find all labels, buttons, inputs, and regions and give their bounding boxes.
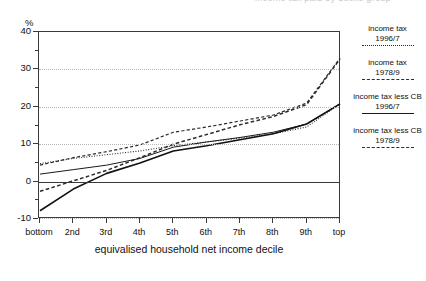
- gridline-10: [39, 144, 339, 145]
- data-series-layer: [39, 32, 341, 219]
- y-tick-label-20: 20: [5, 100, 31, 111]
- legend-item-2[interactable]: income tax1978/9: [349, 58, 426, 80]
- y-tick-label--10: -10: [5, 212, 31, 223]
- legend-swatch-dotted: [362, 45, 414, 46]
- x-tick-9th: [306, 218, 307, 223]
- legend-item-label-period: 1996/7: [349, 34, 426, 44]
- series-income-tax-less-cb-1978-9: [40, 59, 340, 191]
- legend-item-label-period: 1978/9: [349, 136, 426, 146]
- y-tick-label-40: 40: [5, 25, 31, 36]
- zero-axis-line: [39, 182, 339, 183]
- x-tick-bottom: [39, 218, 40, 223]
- gridline-20: [39, 107, 339, 108]
- x-axis-tick-marks: [38, 218, 340, 224]
- legend-item-label-primary: income tax: [349, 24, 426, 34]
- series-income-tax-1996-7: [40, 104, 340, 164]
- legend-item-label-period: 1996/7: [349, 102, 426, 112]
- x-axis-labels: bottom2nd3rd4th5th6th7th8th9thtop: [0, 227, 380, 241]
- x-tick-2nd: [72, 218, 73, 223]
- chart-legend: income tax1996/7income tax1978/9income t…: [349, 24, 426, 164]
- y-tick-label-30: 30: [5, 62, 31, 73]
- x-tick-6th: [206, 218, 207, 223]
- legend-item-4[interactable]: income tax less CB1978/9: [349, 126, 426, 148]
- series-income-tax-less-cb-1996-7-lower: [40, 104, 340, 211]
- legend-swatch-solid: [362, 113, 414, 114]
- x-tick-3rd: [106, 218, 107, 223]
- x-tick-8th: [272, 218, 273, 223]
- legend-item-label-primary: income tax: [349, 58, 426, 68]
- plot-area: [38, 31, 340, 218]
- legend-swatch-dashed-wide: [362, 147, 414, 148]
- gridline-30: [39, 69, 339, 70]
- x-tick-5th: [172, 218, 173, 223]
- legend-item-1[interactable]: income tax1996/7: [349, 24, 426, 46]
- legend-item-3[interactable]: income tax less CB1996/7: [349, 92, 426, 114]
- x-tick-top: [339, 218, 340, 223]
- y-axis-labels: 40 30 20 10 0 -10: [0, 31, 31, 218]
- chart-figure: % 40 30 20 10 0 -10: [0, 0, 426, 281]
- y-tick-label-10: 10: [5, 137, 31, 148]
- legend-item-label-primary: income tax less CB: [349, 92, 426, 102]
- x-tick-label-top: top: [317, 227, 361, 237]
- legend-item-label-period: 1978/9: [349, 68, 426, 78]
- legend-swatch-dashed-fine: [362, 79, 414, 80]
- x-axis-title: equivalised household net income decile: [38, 243, 340, 255]
- x-tick-7th: [239, 218, 240, 223]
- legend-item-label-primary: income tax less CB: [349, 126, 426, 136]
- x-tick-4th: [139, 218, 140, 223]
- y-tick-label-0: 0: [5, 175, 31, 186]
